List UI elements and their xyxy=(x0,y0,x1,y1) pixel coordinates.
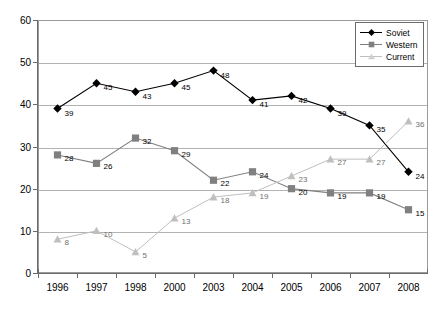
data-label-western-1998: 32 xyxy=(143,138,152,146)
diamond-icon xyxy=(368,29,375,36)
data-label-current-2007: 27 xyxy=(377,159,386,167)
data-point-soviet-2003 xyxy=(209,66,217,74)
x-axis-tick-mark-2007 xyxy=(350,273,351,278)
legend-marker-diamond-icon xyxy=(360,28,382,37)
legend-marker-square-icon xyxy=(360,40,382,49)
data-label-soviet-2006: 39 xyxy=(338,110,347,118)
data-label-western-1997: 26 xyxy=(104,163,113,171)
data-label-western-2008: 15 xyxy=(416,210,425,218)
data-point-soviet-2000 xyxy=(170,79,178,87)
data-label-current-2005: 23 xyxy=(299,176,308,184)
chart-container: 0102030405060 39454345484142393524282632… xyxy=(0,0,448,311)
x-axis-tick-label-2005: 2005 xyxy=(280,282,302,293)
y-axis-tick-label-40: 40 xyxy=(20,99,31,110)
data-point-soviet-2004 xyxy=(248,96,256,104)
data-point-current-2008 xyxy=(405,117,413,124)
x-axis: 1996199719982000200320042005200620072008 xyxy=(38,273,428,311)
legend-item-western[interactable]: Western xyxy=(360,39,418,50)
data-point-current-2004 xyxy=(249,189,257,196)
x-axis-tick-label-2006: 2006 xyxy=(319,282,341,293)
x-axis-tick-label-2000: 2000 xyxy=(163,282,185,293)
y-axis-tick-label-30: 30 xyxy=(20,141,31,152)
y-axis-tick-label-10: 10 xyxy=(20,225,31,236)
data-point-soviet-1997 xyxy=(92,79,100,87)
data-point-western-2007 xyxy=(366,189,373,196)
series-western xyxy=(54,134,412,213)
data-label-western-2005: 20 xyxy=(299,189,308,197)
data-label-current-2004: 19 xyxy=(260,193,269,201)
data-label-western-2000: 29 xyxy=(182,151,191,159)
data-point-soviet-2006 xyxy=(326,104,334,112)
data-label-western-2003: 22 xyxy=(221,180,230,188)
data-label-western-1996: 28 xyxy=(65,155,74,163)
data-point-current-1997 xyxy=(93,227,101,234)
triangle-icon xyxy=(368,53,375,60)
y-axis-tick-label-50: 50 xyxy=(20,57,31,68)
data-label-soviet-2004: 41 xyxy=(260,101,269,109)
x-axis-tick-mark-2005 xyxy=(272,273,273,278)
data-label-soviet-1996: 39 xyxy=(65,110,74,118)
y-axis-tick-label-0: 0 xyxy=(25,268,31,279)
legend-label-current: Current xyxy=(386,52,414,62)
x-axis-tick-mark-2000 xyxy=(155,273,156,278)
x-axis-tick-label-1998: 1998 xyxy=(124,282,146,293)
legend-item-soviet[interactable]: Soviet xyxy=(360,27,418,38)
data-label-soviet-2007: 35 xyxy=(377,126,386,134)
x-axis-tick-mark-2006 xyxy=(311,273,312,278)
data-label-soviet-2008: 24 xyxy=(416,173,425,181)
x-axis-tick-mark-1997 xyxy=(77,273,78,278)
data-label-current-2000: 13 xyxy=(182,218,191,226)
data-point-western-2006 xyxy=(327,189,334,196)
x-axis-endcap-right xyxy=(427,269,428,274)
data-point-soviet-2005 xyxy=(287,92,295,100)
data-point-western-1998 xyxy=(132,134,139,141)
data-label-current-1996: 8 xyxy=(65,239,69,247)
data-label-current-1998: 5 xyxy=(143,252,147,260)
legend-label-soviet: Soviet xyxy=(386,28,410,38)
data-point-soviet-1996 xyxy=(53,104,61,112)
data-point-current-2005 xyxy=(288,172,296,179)
legend-label-western: Western xyxy=(386,40,418,50)
x-axis-tick-mark-1998 xyxy=(116,273,117,278)
data-label-current-2006: 27 xyxy=(338,159,347,167)
series-line-western xyxy=(58,138,409,210)
x-axis-tick-label-2008: 2008 xyxy=(397,282,419,293)
y-axis-tick-label-60: 60 xyxy=(20,15,31,26)
data-label-current-2008: 36 xyxy=(416,121,425,129)
y-axis: 0102030405060 xyxy=(0,20,38,273)
data-label-western-2006: 19 xyxy=(338,193,347,201)
x-axis-tick-label-1996: 1996 xyxy=(46,282,68,293)
chart-legend: Soviet Western Current xyxy=(355,22,424,67)
x-axis-tick-mark-1996 xyxy=(38,273,39,278)
data-label-soviet-1997: 45 xyxy=(104,84,113,92)
data-point-western-2003 xyxy=(210,177,217,184)
x-axis-tick-mark-2003 xyxy=(194,273,195,278)
data-label-current-1997: 10 xyxy=(104,231,113,239)
x-axis-tick-label-1997: 1997 xyxy=(85,282,107,293)
x-axis-tick-mark-2008 xyxy=(389,273,390,278)
x-axis-tick-label-2004: 2004 xyxy=(241,282,263,293)
square-icon xyxy=(368,41,375,48)
data-label-western-2004: 24 xyxy=(260,172,269,180)
data-label-western-2007: 19 xyxy=(377,193,386,201)
data-point-current-2000 xyxy=(171,214,179,221)
data-point-western-1997 xyxy=(93,160,100,167)
data-label-soviet-1998: 43 xyxy=(143,93,152,101)
data-label-soviet-2005: 42 xyxy=(299,97,308,105)
data-point-western-2004 xyxy=(249,168,256,175)
x-axis-tick-label-2003: 2003 xyxy=(202,282,224,293)
data-point-soviet-1998 xyxy=(131,87,139,95)
x-axis-tick-mark-2004 xyxy=(233,273,234,278)
legend-marker-triangle-icon xyxy=(360,52,382,61)
data-point-western-2000 xyxy=(171,147,178,154)
data-label-soviet-2003: 48 xyxy=(221,72,230,80)
data-point-western-2008 xyxy=(405,206,412,213)
legend-item-current[interactable]: Current xyxy=(360,51,418,62)
data-label-soviet-2000: 45 xyxy=(182,84,191,92)
y-axis-tick-label-20: 20 xyxy=(20,183,31,194)
x-axis-tick-label-2007: 2007 xyxy=(358,282,380,293)
data-point-western-2005 xyxy=(288,185,295,192)
data-point-western-1996 xyxy=(54,151,61,158)
data-label-current-2003: 18 xyxy=(221,197,230,205)
